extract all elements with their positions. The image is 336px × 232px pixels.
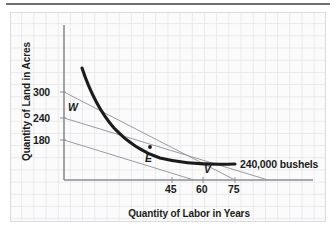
isoquant-curve-240000-bushels <box>82 68 235 164</box>
tangency-point-e-marker <box>148 145 152 149</box>
isocost-label-w: W <box>68 101 78 113</box>
y-tick-label-300: 300 <box>33 86 50 98</box>
curve-label-240000-bushels: 240,000 bushels <box>240 158 318 170</box>
isoquant-figure: 300 240 180 45 60 75 W E V 240,000 bushe… <box>0 0 336 232</box>
point-label-e: E <box>145 152 152 164</box>
y-tick-label-180: 180 <box>33 134 50 146</box>
plot-area <box>0 0 336 232</box>
point-label-v: V <box>204 163 211 175</box>
x-axis-title: Quantity of Labor in Years <box>64 208 314 219</box>
x-tick-label-60: 60 <box>196 183 207 195</box>
y-tick-label-240: 240 <box>33 112 50 124</box>
x-tick-label-75: 75 <box>228 183 239 195</box>
y-axis-title: Quantity of Land in Acres <box>21 42 32 162</box>
x-tick-label-45: 45 <box>165 183 176 195</box>
